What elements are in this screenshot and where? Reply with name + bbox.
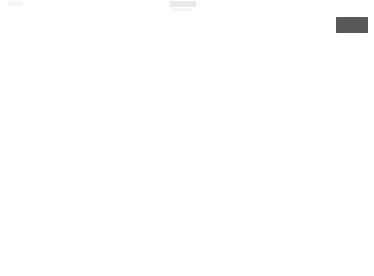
chrome-smudge-left [8,1,22,6]
browser-chrome-remnant [0,0,374,12]
chart-card [0,12,374,276]
screenshot-root [0,0,374,276]
plot-svg [48,53,366,240]
chrome-smudge-center [170,1,196,7]
plot-area[interactable] [48,53,366,240]
chrome-smudge-center-lower [172,8,192,11]
